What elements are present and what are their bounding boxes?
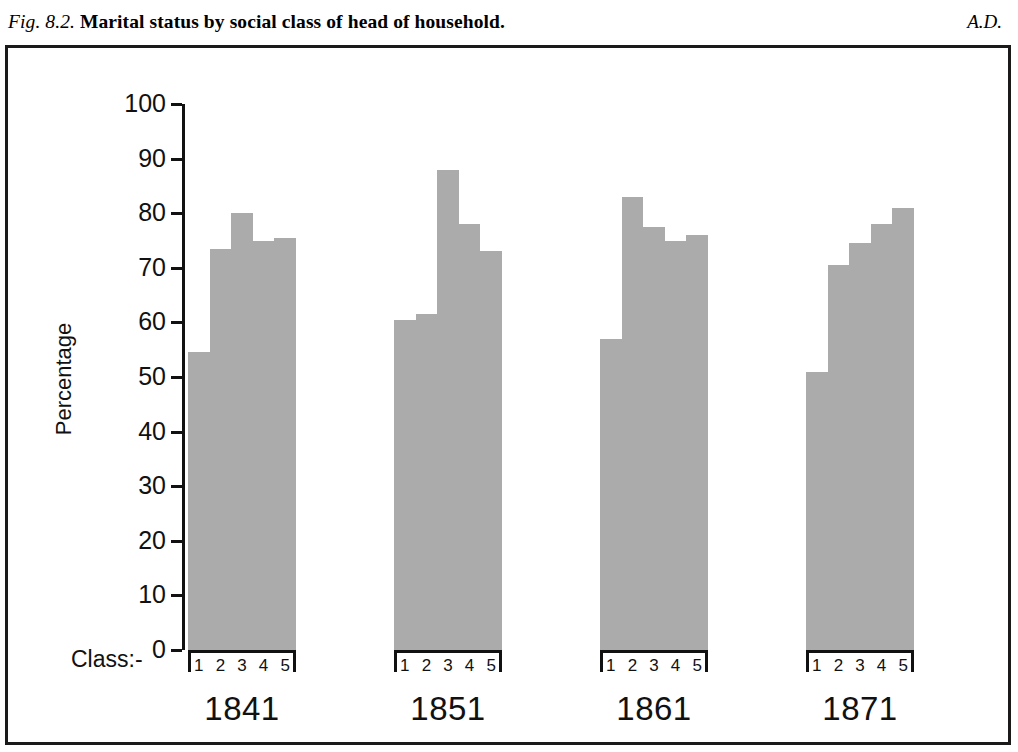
bar-1871-class-3[interactable] (849, 243, 871, 650)
class-number-2: 2 (210, 657, 232, 674)
y-axis-title: Percentage (51, 279, 77, 479)
group-year-label: 1861 (590, 690, 718, 728)
class-number-row: 12345 (806, 657, 914, 674)
figure-caption: Fig. 8.2. Marital status by social class… (8, 11, 505, 33)
bar-series (600, 104, 708, 650)
bar-1861-class-3[interactable] (643, 227, 665, 650)
y-axis-tick (171, 103, 182, 106)
y-axis-tick-label: 20 (102, 528, 166, 553)
class-number-3: 3 (643, 657, 665, 674)
bar-1871-class-1[interactable] (806, 372, 828, 650)
class-number-4: 4 (665, 657, 687, 674)
class-number-5: 5 (274, 657, 296, 674)
bar-1861-class-4[interactable] (665, 241, 687, 651)
y-axis-tick-label: 50 (102, 364, 166, 389)
class-number-row: 12345 (600, 657, 708, 674)
group-year-label: 1851 (384, 690, 512, 728)
bar-1871-class-4[interactable] (871, 224, 893, 650)
y-axis-tick-label: 70 (102, 255, 166, 280)
y-axis-tick (171, 431, 182, 434)
bar-1861-class-2[interactable] (622, 197, 644, 650)
caption-right-note: A.D. (967, 11, 1008, 33)
y-axis-tick (171, 649, 182, 652)
y-axis-tick-label: 30 (102, 473, 166, 498)
bar-1871-class-2[interactable] (828, 265, 850, 650)
bar-series (806, 104, 914, 650)
x-axis-class-label: Class:- (71, 646, 143, 673)
class-number-row: 12345 (188, 657, 296, 674)
class-number-1: 1 (806, 657, 828, 674)
y-axis-tick-label: 60 (102, 309, 166, 334)
y-axis-tick (171, 267, 182, 270)
bar-1871-class-5[interactable] (892, 208, 914, 650)
bar-group-1851: 123451851 (390, 48, 506, 742)
class-number-3: 3 (231, 657, 253, 674)
class-number-4: 4 (871, 657, 893, 674)
class-number-2: 2 (828, 657, 850, 674)
class-number-3: 3 (437, 657, 459, 674)
group-baseline (394, 650, 502, 653)
class-number-2: 2 (416, 657, 438, 674)
bar-1841-class-5[interactable] (274, 238, 296, 650)
class-number-1: 1 (600, 657, 622, 674)
y-axis-tick-label: 90 (102, 146, 166, 171)
bar-1851-class-5[interactable] (480, 251, 502, 650)
y-axis-tick-label: 40 (102, 419, 166, 444)
bar-group-1861: 123451861 (596, 48, 712, 742)
class-number-5: 5 (480, 657, 502, 674)
group-year-label: 1841 (178, 690, 306, 728)
class-number-1: 1 (394, 657, 416, 674)
y-axis-tick (171, 321, 182, 324)
figure-number: Fig. 8.2. (8, 11, 75, 32)
y-axis-tick-label: 10 (102, 582, 166, 607)
bar-group-1841: 123451841 (184, 48, 300, 742)
bar-1851-class-4[interactable] (459, 224, 481, 650)
y-axis-tick (171, 376, 182, 379)
figure-frame: 1009080706050403020100 Percentage Class:… (5, 45, 1011, 745)
class-number-1: 1 (188, 657, 210, 674)
group-year-label: 1871 (796, 690, 924, 728)
class-number-row: 12345 (394, 657, 502, 674)
bar-1841-class-2[interactable] (210, 249, 232, 650)
y-axis-tick (171, 212, 182, 215)
class-number-5: 5 (686, 657, 708, 674)
y-axis-tick (171, 485, 182, 488)
figure-title: Marital status by social class of head o… (80, 11, 505, 32)
bar-1841-class-4[interactable] (253, 241, 275, 651)
bar-1861-class-5[interactable] (686, 235, 708, 650)
y-axis-tick-label: 80 (102, 200, 166, 225)
bar-group-1871: 123451871 (802, 48, 918, 742)
class-number-2: 2 (622, 657, 644, 674)
figure-caption-row: Fig. 8.2. Marital status by social class… (0, 0, 1018, 44)
group-baseline (806, 650, 914, 653)
bar-1851-class-2[interactable] (416, 314, 438, 650)
bar-1861-class-1[interactable] (600, 339, 622, 650)
y-axis-labels: 1009080706050403020100 (90, 48, 166, 742)
y-axis-tick (171, 540, 182, 543)
y-axis-tick-label: 100 (102, 91, 166, 116)
bar-1841-class-1[interactable] (188, 352, 210, 650)
chart-plot-area: 1009080706050403020100 Percentage Class:… (8, 48, 1008, 742)
y-axis-tick (171, 594, 182, 597)
class-number-5: 5 (892, 657, 914, 674)
class-number-4: 4 (253, 657, 275, 674)
class-number-4: 4 (459, 657, 481, 674)
bar-1851-class-3[interactable] (437, 170, 459, 650)
group-baseline (188, 650, 296, 653)
bar-series (188, 104, 296, 650)
group-baseline (600, 650, 708, 653)
bar-series (394, 104, 502, 650)
bar-1851-class-1[interactable] (394, 320, 416, 650)
class-number-3: 3 (849, 657, 871, 674)
bar-1841-class-3[interactable] (231, 213, 253, 650)
y-axis-tick (171, 158, 182, 161)
